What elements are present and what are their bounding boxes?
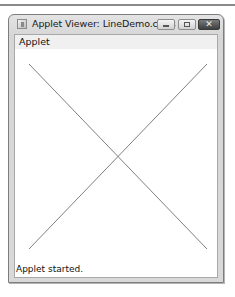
applet-canvas[interactable]	[15, 49, 217, 261]
title-bar[interactable]: Applet Viewer: LineDemo.class ✕	[9, 15, 223, 33]
maximize-button[interactable]	[178, 19, 196, 30]
menu-bar: Applet	[15, 35, 217, 49]
maximize-icon	[184, 22, 190, 27]
java-applet-icon[interactable]	[17, 19, 27, 29]
close-icon: ✕	[199, 18, 219, 30]
window-title: Applet Viewer: LineDemo.class	[32, 18, 176, 29]
close-button[interactable]: ✕	[198, 19, 220, 30]
line-drawing	[15, 49, 217, 261]
window-client-area: Applet Applet started.	[14, 34, 218, 278]
minimize-icon	[163, 25, 169, 27]
status-bar: Applet started.	[15, 261, 217, 277]
menu-applet[interactable]: Applet	[19, 36, 50, 47]
applet-viewer-window: Applet Viewer: LineDemo.class ✕ Applet A…	[8, 14, 224, 283]
minimize-button[interactable]	[157, 19, 175, 30]
page-top-rule	[0, 4, 235, 6]
status-text: Applet started.	[16, 264, 83, 274]
